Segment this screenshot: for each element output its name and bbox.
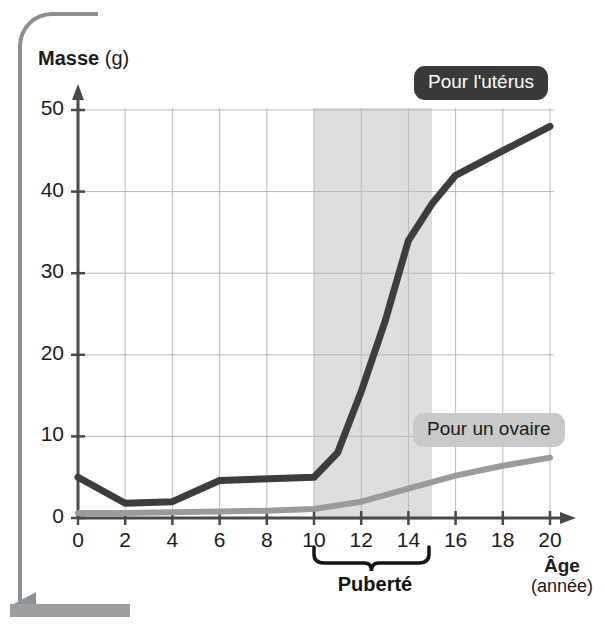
- x-tick-label: 0: [61, 528, 95, 552]
- y-tick-label: 20: [18, 341, 64, 365]
- x-axis-title-text: Âge: [520, 556, 604, 577]
- puberty-annotation-label: Puberté: [313, 573, 437, 596]
- legend-ovary-badge: Pour un ovaire: [413, 413, 565, 447]
- y-tick-label: 0: [18, 504, 64, 528]
- y-axis-title: Masse (g): [38, 47, 129, 70]
- legend-uterus-badge: Pour l'utérus: [414, 66, 548, 100]
- x-tick-label: 12: [344, 528, 378, 552]
- x-tick-label: 8: [250, 528, 284, 552]
- y-tick-label: 50: [18, 96, 64, 120]
- x-tick-label: 10: [297, 528, 331, 552]
- y-tick-label: 10: [18, 422, 64, 446]
- x-tick-label: 4: [155, 528, 189, 552]
- x-axis-title: Âge (année): [520, 556, 604, 596]
- x-tick-label: 16: [439, 528, 473, 552]
- x-tick-label: 20: [533, 528, 567, 552]
- y-tick-label: 30: [18, 259, 64, 283]
- x-tick-label: 14: [391, 528, 425, 552]
- y-axis-arrowhead: [72, 84, 84, 100]
- chart-figure: Masse (g) Âge (année) Pour l'utérus Pour…: [0, 0, 605, 635]
- y-axis-unit: (g): [105, 47, 129, 69]
- y-axis-title-text: Masse: [38, 47, 99, 69]
- x-tick-label: 6: [203, 528, 237, 552]
- x-tick-label: 18: [486, 528, 520, 552]
- y-tick-label: 40: [18, 178, 64, 202]
- x-axis-arrowhead: [560, 512, 576, 524]
- x-axis-unit: (année): [520, 577, 604, 596]
- x-tick-label: 2: [108, 528, 142, 552]
